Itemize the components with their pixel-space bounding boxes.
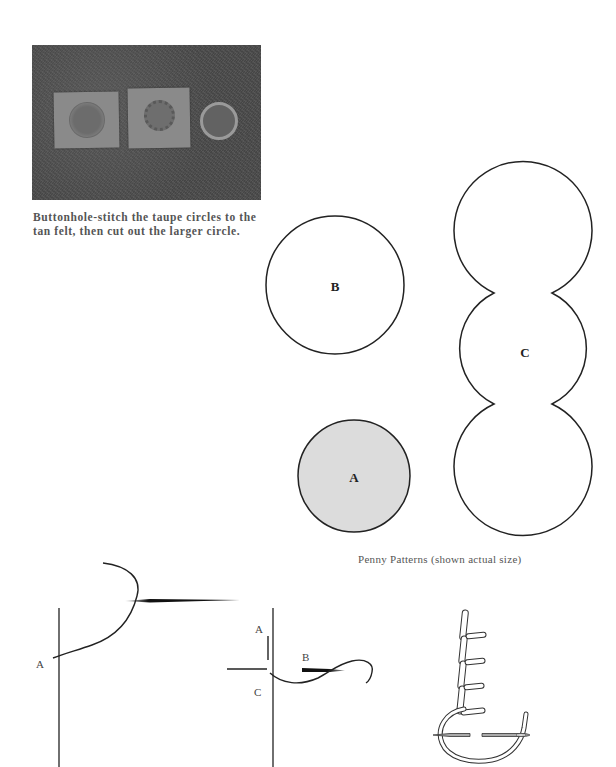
pattern-b: B <box>266 216 404 354</box>
pattern-a: A <box>298 420 410 532</box>
pattern-a-label: A <box>349 470 359 485</box>
label-a: A <box>36 658 44 670</box>
label-a: A <box>255 623 263 635</box>
stitch-diagram-left: A <box>36 563 240 767</box>
pattern-c-label: C <box>520 345 529 360</box>
stitch-diagram-middle: A B C <box>227 608 372 767</box>
pattern-b-label: B <box>331 279 340 294</box>
needle-icon <box>125 599 240 603</box>
patterns-caption: Penny Patterns (shown actual size) <box>358 553 522 565</box>
thread <box>53 563 138 658</box>
needle-icon <box>302 668 345 672</box>
pattern-c: C <box>454 161 592 535</box>
label-b: B <box>302 651 309 663</box>
pattern-and-diagram-layer: B A C A A B C <box>0 0 616 767</box>
label-c: C <box>254 686 261 698</box>
stitch-diagram-right <box>433 610 530 761</box>
